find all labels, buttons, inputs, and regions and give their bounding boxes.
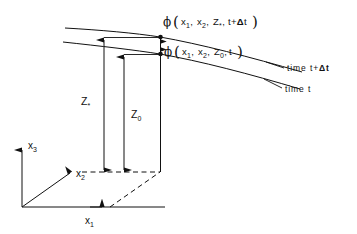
label-axis-x1: x1 [85, 215, 94, 228]
axis-x2-text: x2 [76, 168, 85, 181]
label-curve-time-t-plus-dt: time t+Δt [287, 63, 330, 73]
arg-x2-upper: x2, [197, 16, 209, 29]
paren-close-upper: ) [252, 13, 258, 31]
diagram-svg: ϕ ( x1, x2, Z*, t+Δt ) ϕ ( x1, x2, [0, 0, 357, 234]
arg-time-lower: t [229, 46, 232, 57]
paren-close-lower: ) [237, 43, 243, 61]
z-zero-text: Z0 [131, 108, 141, 122]
curve-label-lower-text: time t [285, 84, 311, 94]
label-upper-point: ϕ ( x1, x2, Z*, t+Δt ) [163, 13, 258, 31]
leader-time-t [264, 79, 282, 88]
label-z-star: Z* [81, 95, 90, 109]
arg-z-zero-lower: Z0, [214, 46, 227, 59]
height-tick-lines [104, 38, 160, 55]
axis-x2-line [22, 173, 70, 207]
label-axis-x3: x3 [28, 140, 37, 153]
arg-x2-lower: x2, [198, 46, 210, 59]
arg-x1-upper: x1, [181, 16, 193, 29]
z-star-text: Z* [81, 95, 90, 109]
leader-time-t-plus-dt [266, 62, 284, 68]
label-z-zero: Z0 [131, 108, 141, 122]
arg-z-star-upper: Z*, [213, 16, 225, 29]
arg-time-upper: t+Δt [228, 16, 247, 27]
arg-x1-lower: x1, [182, 46, 194, 59]
label-curve-time-t: time t [285, 84, 311, 94]
dashed-line-diagonal [110, 172, 160, 207]
phi-symbol-lower: ϕ [164, 45, 172, 59]
axis-x3-text: x3 [28, 140, 37, 153]
paren-open-upper: ( [173, 13, 179, 31]
curve-label-upper-text: time t+Δt [287, 63, 330, 73]
figure-canvas: ϕ ( x1, x2, Z*, t+Δt ) ϕ ( x1, x2, [0, 0, 357, 234]
phi-symbol-upper: ϕ [163, 15, 171, 29]
axis-x1-text: x1 [85, 215, 94, 228]
base-plane [22, 150, 165, 207]
label-axis-x2: x2 [76, 168, 85, 181]
paren-open-lower: ( [174, 43, 180, 61]
